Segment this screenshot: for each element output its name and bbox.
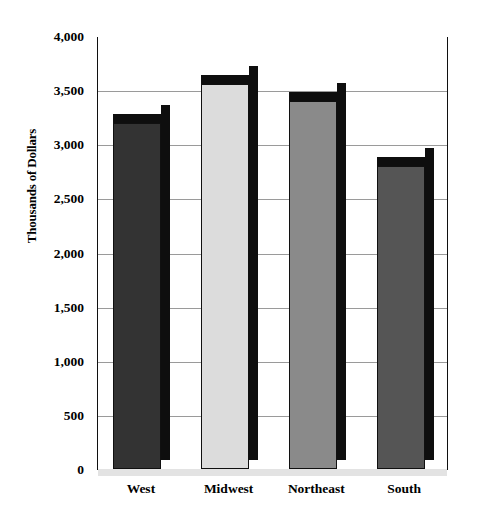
bar-front-face — [201, 84, 249, 469]
bar — [201, 75, 249, 469]
bar-front-face — [377, 166, 425, 469]
x-axis-label: Midwest — [204, 481, 254, 497]
y-tick-label: 0 — [18, 462, 84, 478]
x-axis-category-labels: WestMidwestNortheastSouth — [97, 481, 448, 505]
bar-top-face — [113, 114, 170, 123]
x-axis-label: South — [387, 481, 421, 497]
y-tick-label: 3,000 — [18, 137, 84, 153]
y-tick-label: 4,000 — [18, 29, 84, 45]
y-tick-label: 2,000 — [18, 246, 84, 262]
plot-floor — [98, 469, 447, 476]
gridline — [98, 91, 447, 92]
x-axis-label: Northeast — [288, 481, 345, 497]
y-tick-label: 500 — [18, 408, 84, 424]
bar — [113, 114, 161, 469]
y-tick-label: 2,500 — [18, 191, 84, 207]
bar — [377, 157, 425, 469]
bar — [289, 92, 337, 469]
bar-front-face — [289, 101, 337, 469]
y-axis-tick-labels: 05001,0001,5002,0002,5003,0003,5004,000 — [18, 0, 90, 517]
bar-top-face — [201, 75, 258, 84]
bar-side-face — [249, 66, 258, 460]
bar-side-face — [337, 83, 346, 460]
bar-side-face — [161, 105, 170, 460]
bar-chart: Thousands of Dollars 05001,0001,5002,000… — [0, 0, 478, 517]
bar-top-face — [377, 157, 434, 166]
y-tick-label: 1,000 — [18, 354, 84, 370]
y-tick-label: 1,500 — [18, 300, 84, 316]
x-axis-label: West — [127, 481, 156, 497]
plot-area — [97, 37, 448, 470]
y-tick-label: 3,500 — [18, 83, 84, 99]
bar-front-face — [113, 123, 161, 469]
bar-side-face — [425, 148, 434, 460]
bar-top-face — [289, 92, 346, 101]
